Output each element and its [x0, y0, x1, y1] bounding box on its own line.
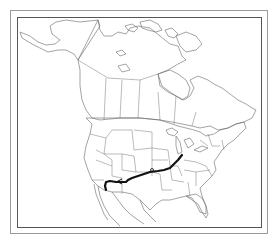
- route-line: [105, 155, 182, 190]
- mexico-outline: [98, 186, 156, 226]
- hudson-bay: [158, 70, 190, 100]
- north-america-map: [0, 0, 279, 245]
- usa-outline: [84, 118, 246, 214]
- arctic-islands: [116, 20, 202, 72]
- canada-outline: [78, 20, 256, 130]
- province-borders: [78, 60, 196, 126]
- state-borders: [90, 130, 224, 196]
